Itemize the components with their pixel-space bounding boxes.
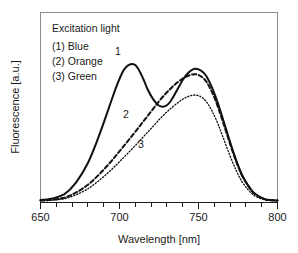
x-tick-label-650: 650 — [31, 211, 49, 223]
x-axis-minor-ticks — [56, 203, 261, 207]
legend-entry-green: (3) Green — [52, 70, 97, 82]
curve-blue-solid — [41, 64, 278, 201]
chart-canvas: 650 700 750 800 Wavelength [nm] Fluoresc… — [0, 0, 298, 253]
legend-title: Excitation light — [52, 22, 120, 34]
legend: Excitation light (1) Blue (2) Orange (3)… — [52, 22, 120, 82]
legend-entry-orange: (2) Orange — [52, 55, 103, 67]
x-axis-title: Wavelength [nm] — [118, 233, 200, 245]
legend-entry-blue: (1) Blue — [52, 40, 89, 52]
y-axis-title: Fluorescence [a.u.] — [9, 60, 21, 154]
x-tick-label-750: 750 — [189, 211, 207, 223]
x-axis-major-ticks — [41, 203, 278, 209]
x-tick-label-800: 800 — [268, 211, 286, 223]
fluorescence-spectra-figure: 650 700 750 800 Wavelength [nm] Fluoresc… — [0, 0, 298, 253]
curve-tag-3: 3 — [138, 138, 144, 150]
curve-green-dotted — [41, 95, 278, 201]
curve-tag-1: 1 — [115, 45, 121, 57]
x-tick-label-700: 700 — [110, 211, 128, 223]
curve-tag-2: 2 — [123, 108, 129, 120]
